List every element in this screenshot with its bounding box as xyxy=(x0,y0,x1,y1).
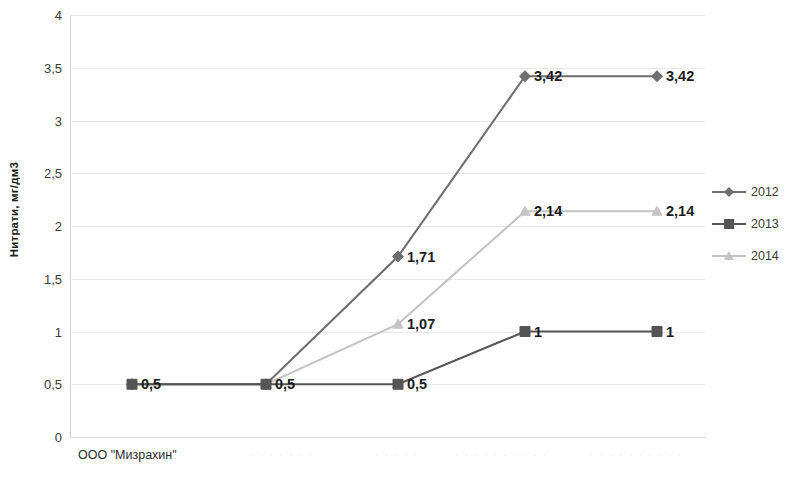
y-axis-tick-labels: 00,511,522,533,54 xyxy=(12,0,62,479)
legend-item-2013[interactable]: 2013 xyxy=(712,208,788,240)
data-label-2013: 0,5 xyxy=(141,376,161,392)
series-line-2012 xyxy=(132,76,657,384)
plot-area: 1,713,423,420,50,50,5111,072,142,14 xyxy=(70,15,705,437)
legend-label: 2012 xyxy=(746,185,779,199)
legend-marker-square-icon xyxy=(723,218,735,230)
legend-marker-diamond-icon xyxy=(723,186,735,198)
legend-label: 2014 xyxy=(746,249,779,263)
y-tick-label: 0,5 xyxy=(16,377,62,392)
gridline xyxy=(70,437,705,438)
x-axis-ghost-label-5: · · · · · · · · · · xyxy=(590,449,683,461)
data-label-2012: 1,71 xyxy=(407,249,435,265)
y-tick-label: 1,5 xyxy=(16,271,62,286)
y-tick-label: 3 xyxy=(16,113,62,128)
data-label-2013: 1 xyxy=(534,324,542,340)
series-line-2014 xyxy=(132,211,657,384)
x-axis-ghost-label-4: · · · · · · · · · · xyxy=(455,449,548,461)
x-axis-ghost-label-2: · · · · · · · xyxy=(250,449,313,461)
legend-label: 2013 xyxy=(746,217,779,231)
data-point-marker-2013 xyxy=(261,379,271,389)
data-label-2014: 2,14 xyxy=(534,203,562,219)
data-label-2013: 0,5 xyxy=(407,376,427,392)
data-label-2012: 3,42 xyxy=(666,68,694,84)
legend-swatch-2012 xyxy=(712,186,746,198)
data-label-2014: 1,07 xyxy=(407,316,435,332)
legend-marker-triangle-icon xyxy=(723,250,735,262)
legend: 201220132014 xyxy=(712,176,788,272)
y-tick-label: 2 xyxy=(16,219,62,234)
data-point-marker-2013 xyxy=(652,327,662,337)
legend-swatch-2014 xyxy=(712,250,746,262)
x-axis-ghost-label-3: · · · · · xyxy=(375,449,419,461)
data-point-marker-2013 xyxy=(393,379,403,389)
y-tick-label: 4 xyxy=(16,8,62,23)
data-point-marker-2012 xyxy=(652,71,663,82)
nitrates-line-chart: Нитрати, мг/дм3 00,511,522,533,54 1,713,… xyxy=(0,0,789,479)
x-axis-caption: ООО "Мизрахин" xyxy=(78,448,177,462)
legend-swatch-2013 xyxy=(712,218,746,230)
data-label-2013: 1 xyxy=(666,324,674,340)
legend-item-2014[interactable]: 2014 xyxy=(712,240,788,272)
series-line-2013 xyxy=(132,332,657,385)
data-label-2013: 0,5 xyxy=(275,376,295,392)
series-lines-and-markers xyxy=(70,15,705,437)
y-tick-label: 3,5 xyxy=(16,60,62,75)
y-tick-label: 0 xyxy=(16,430,62,445)
legend-item-2012[interactable]: 2012 xyxy=(712,176,788,208)
y-tick-label: 2,5 xyxy=(16,166,62,181)
data-point-marker-2013 xyxy=(520,327,530,337)
data-point-marker-2013 xyxy=(127,379,137,389)
y-tick-label: 1 xyxy=(16,324,62,339)
data-label-2014: 2,14 xyxy=(666,203,694,219)
data-label-2012: 3,42 xyxy=(534,68,562,84)
